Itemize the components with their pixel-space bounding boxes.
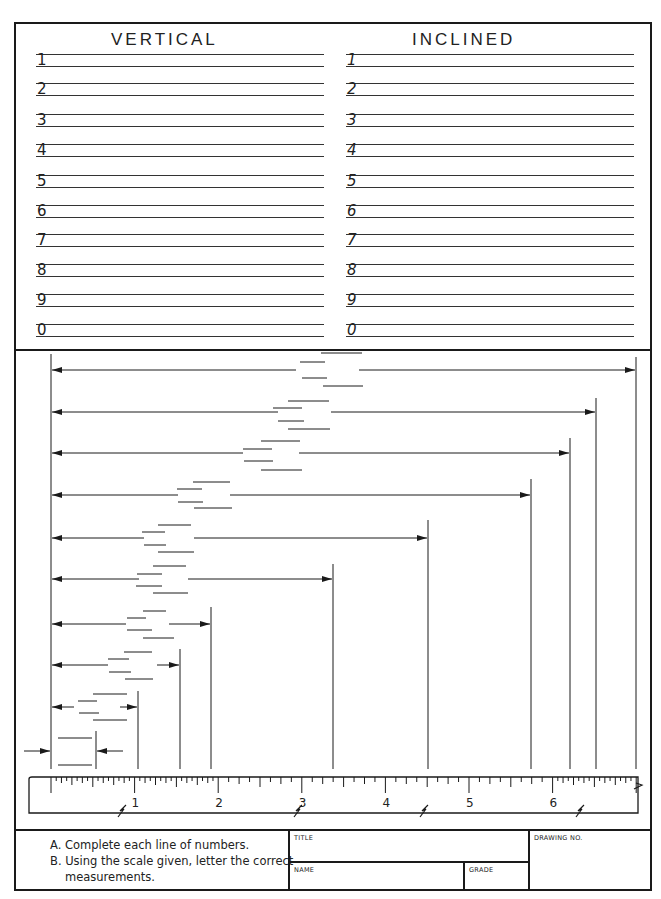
row-numeral: 6 [347,204,357,218]
scale-label-1: 1 [132,796,140,810]
guide-line-bottom [346,306,634,307]
row-numeral: 6 [37,204,47,218]
row-numeral: 2 [347,82,357,96]
ruler-scale [29,777,638,813]
guide-line-top [346,175,634,176]
inclined-row-4[interactable]: 4 [346,144,634,157]
row-numeral: 9 [37,293,47,307]
inclined-row-7[interactable]: 7 [346,234,634,247]
row-numeral: 3 [347,113,357,127]
guide-line-top [36,264,324,265]
scale-label-6: 6 [550,796,558,810]
guide-line-top [36,205,324,206]
name-field[interactable]: NAME [288,863,463,891]
drawing-sheet: VERTICAL INCLINED 1 2 3 4 5 6 7 8 9 0 1 … [14,22,652,891]
row-numeral: 0 [37,323,47,337]
inclined-row-6[interactable]: 6 [346,205,634,218]
vertical-row-8[interactable]: 8 [36,264,324,277]
guide-line-bottom [36,187,324,188]
scale-label-4: 4 [382,796,390,810]
row-numeral: 8 [347,263,357,277]
page-header [0,0,661,14]
scale-label-2: 2 [215,796,223,810]
title-field[interactable]: TITLE [288,831,528,863]
guide-line-top [346,234,634,235]
grade-label: GRADE [469,866,493,874]
instruction-a: A. Complete each line of numbers. [50,837,293,853]
title-block: A. Complete each line of numbers. B. Usi… [16,829,650,891]
guide-line-top [36,144,324,145]
vertical-row-3[interactable]: 3 [36,114,324,127]
instruction-text: Using the scale given, letter the correc… [65,854,293,868]
instruction-b: B. Using the scale given, letter the cor… [50,853,293,869]
inclined-row-0[interactable]: 0 [346,324,634,337]
guide-line-top [346,144,634,145]
guide-line-bottom [346,156,634,157]
instruction-text: Complete each line of numbers. [65,838,249,852]
vertical-row-9[interactable]: 9 [36,294,324,307]
inclined-row-2[interactable]: 2 [346,83,634,96]
grade-field[interactable]: GRADE [463,863,528,891]
dimension-drawing: 123456 [16,349,650,829]
scale-label-5: 5 [466,796,474,810]
guide-line-top [36,83,324,84]
drawing-number-field[interactable]: DRAWING NO. [528,831,650,891]
row-numeral: 1 [37,53,47,67]
drawing-number-label: DRAWING NO. [534,834,583,842]
guide-line-bottom [346,126,634,127]
guide-line-top [36,114,324,115]
scale-break-marks [118,783,642,817]
guide-line-top [346,114,634,115]
title-label: TITLE [294,834,313,842]
guide-line-top [36,294,324,295]
row-numeral: 4 [347,143,357,157]
row-numeral: 5 [37,174,47,188]
row-numeral: 5 [347,174,357,188]
guide-line-bottom [36,126,324,127]
guide-line-top [346,324,634,325]
guide-line-bottom [346,246,634,247]
inclined-row-3[interactable]: 3 [346,114,634,127]
guide-line-bottom [36,95,324,96]
guide-line-bottom [346,66,634,67]
row-numeral: 1 [347,53,357,67]
inclined-row-9[interactable]: 9 [346,294,634,307]
guide-line-top [346,205,634,206]
inclined-row-1[interactable]: 1 [346,54,634,67]
guide-line-bottom [36,156,324,157]
vertical-row-7[interactable]: 7 [36,234,324,247]
guide-line-top [346,83,634,84]
guide-line-bottom [36,246,324,247]
guide-line-top [36,175,324,176]
vertical-row-4[interactable]: 4 [36,144,324,157]
row-numeral: 7 [37,233,47,247]
vertical-row-5[interactable]: 5 [36,175,324,188]
row-numeral: 8 [37,263,47,277]
instruction-b-continued: measurements. [50,869,293,885]
vertical-row-2[interactable]: 2 [36,83,324,96]
row-numeral: 9 [347,293,357,307]
guide-line-bottom [346,187,634,188]
row-numeral: 2 [37,82,47,96]
inclined-column-title: INCLINED [412,30,515,50]
row-numeral: 3 [37,113,47,127]
instructions: A. Complete each line of numbers. B. Usi… [50,837,293,885]
guide-line-bottom [346,217,634,218]
guide-line-bottom [346,336,634,337]
vertical-row-6[interactable]: 6 [36,205,324,218]
inclined-row-8[interactable]: 8 [346,264,634,277]
guide-line-top [36,54,324,55]
row-numeral: 7 [347,233,357,247]
guide-line-bottom [36,306,324,307]
vertical-row-1[interactable]: 1 [36,54,324,67]
guide-line-bottom [36,276,324,277]
guide-line-top [36,234,324,235]
guide-line-top [346,264,634,265]
instruction-marker: B. [50,854,62,868]
guide-line-bottom [36,66,324,67]
guide-line-top [346,54,634,55]
inclined-row-5[interactable]: 5 [346,175,634,188]
guide-line-bottom [346,276,634,277]
lettering-practice-section: VERTICAL INCLINED 1 2 3 4 5 6 7 8 9 0 1 … [16,24,650,351]
vertical-row-0[interactable]: 0 [36,324,324,337]
